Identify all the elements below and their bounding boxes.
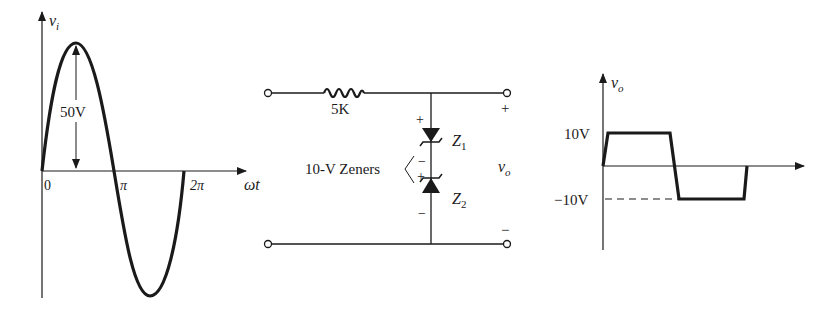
output-terminal-bottom: [504, 241, 511, 248]
input-waveform-plot: 50V vi 0 π 2π ωt: [42, 12, 260, 298]
z1-plus: +: [416, 112, 424, 127]
input-terminal-bottom: [265, 241, 272, 248]
input-sine-curve: [42, 43, 184, 296]
z1-minus: −: [418, 154, 426, 169]
zener-clipper-diagram: 50V vi 0 π 2π ωt 5K: [0, 0, 833, 313]
high-level-label: 10V: [564, 126, 590, 142]
z2-minus: −: [418, 206, 426, 221]
tick-pi: π: [120, 178, 128, 193]
z2-plus: +: [417, 169, 425, 184]
tick-0: 0: [44, 178, 51, 193]
output-terminal-top: [504, 90, 511, 97]
zener-circuit: 5K + − + − Z1 Z2 10-V Zeners + vo −: [265, 89, 512, 248]
output-y-label: vo: [611, 74, 624, 94]
z2-label: Z2: [452, 190, 466, 210]
resistor-label: 5K: [331, 101, 350, 117]
input-y-label: vi: [49, 12, 59, 32]
amplitude-label: 50V: [60, 104, 86, 120]
z1-label: Z1: [452, 132, 466, 152]
zener-group-label: 10-V Zeners: [305, 161, 380, 177]
output-minus: −: [501, 222, 509, 238]
output-plus: +: [501, 100, 509, 116]
input-x-label: ωt: [244, 176, 260, 193]
resistor-5k: [324, 89, 364, 97]
low-level-label: −10V: [554, 192, 588, 208]
zener-group-bracket: [405, 156, 414, 183]
output-waveform-plot: vo 10V −10V: [554, 74, 804, 250]
input-terminal-top: [265, 90, 272, 97]
output-voltage-label: vo: [498, 158, 511, 178]
tick-2pi: 2π: [190, 178, 205, 193]
